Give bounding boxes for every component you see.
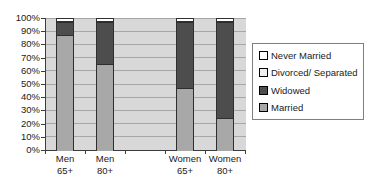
y-axis-label: 50%	[0, 79, 40, 89]
x-axis-label-line1: Men	[83, 153, 127, 165]
x-axis-label-line2: 80+	[83, 165, 127, 177]
y-axis-label: 80%	[0, 39, 40, 49]
legend-label: Divorced/ Separated	[271, 67, 358, 78]
x-axis-label-line2: 65+	[163, 165, 207, 177]
y-tick	[41, 84, 45, 85]
y-tick	[41, 18, 45, 19]
legend-swatch-married	[259, 103, 268, 112]
y-axis-label: 60%	[0, 66, 40, 76]
bar-men-80+	[96, 18, 114, 150]
y-axis-label: 70%	[0, 53, 40, 63]
x-axis-label-line2: 65+	[43, 165, 87, 177]
y-tick	[41, 58, 45, 59]
bar-women-80+	[216, 18, 234, 150]
legend-entry: Never Married	[259, 50, 363, 61]
y-axis-label: 30%	[0, 105, 40, 115]
x-axis-label: Women65+	[163, 153, 207, 176]
x-axis-label: Women80+	[203, 153, 247, 176]
bar-segment-married	[97, 65, 113, 151]
y-tick	[41, 71, 45, 72]
y-axis-label: 0%	[0, 145, 40, 155]
y-tick	[41, 97, 45, 98]
legend-label: Never Married	[271, 50, 331, 61]
bar-men-65+	[56, 18, 74, 150]
x-axis-label-line1: Women	[203, 153, 247, 165]
legend-swatch-never-married	[259, 51, 268, 60]
y-axis-label: 100%	[0, 13, 40, 23]
legend-label: Married	[271, 102, 303, 113]
bar-women-65+	[176, 18, 194, 150]
legend-swatch-divorced-separated	[259, 68, 268, 77]
bar-segment-widowed	[97, 23, 113, 65]
bar-segment-widowed	[57, 23, 73, 36]
y-axis-label: 90%	[0, 26, 40, 36]
chart: Never MarriedDivorced/ SeparatedWidowedM…	[0, 0, 377, 187]
x-axis-label-line1: Women	[163, 153, 207, 165]
bar-segment-married	[217, 119, 233, 151]
y-tick	[41, 137, 45, 138]
legend-swatch-widowed	[259, 86, 268, 95]
x-axis-label-line1: Men	[43, 153, 87, 165]
y-tick	[41, 110, 45, 111]
bar-segment-widowed	[217, 23, 233, 119]
y-axis-label: 10%	[0, 132, 40, 142]
bar-segment-widowed	[177, 23, 193, 89]
bar-segment-married	[57, 36, 73, 151]
y-axis-label: 40%	[0, 92, 40, 102]
y-tick	[41, 31, 45, 32]
y-axis-label: 20%	[0, 119, 40, 129]
x-axis-label-line2: 80+	[203, 165, 247, 177]
legend-entry: Widowed	[259, 85, 363, 96]
legend-entry: Divorced/ Separated	[259, 67, 363, 78]
y-tick	[41, 44, 45, 45]
y-tick	[41, 124, 45, 125]
x-axis-label: Men80+	[83, 153, 127, 176]
x-axis-label: Men65+	[43, 153, 87, 176]
legend-box: Never MarriedDivorced/ SeparatedWidowedM…	[252, 43, 364, 120]
legend-entry: Married	[259, 102, 363, 113]
bar-segment-married	[177, 89, 193, 151]
legend-label: Widowed	[271, 85, 310, 96]
